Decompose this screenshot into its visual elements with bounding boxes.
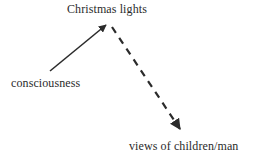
node-label-views-of-children-man: views of children/man (129, 139, 238, 153)
node-label-consciousness: consciousness (11, 76, 80, 90)
node-label-christmas-lights: Christmas lights (67, 2, 147, 16)
edge-consciousness-to-christmas-lights (50, 25, 106, 71)
edge-christmas-lights-to-views (112, 27, 180, 129)
diagram-canvas: Christmas lights consciousness views of … (0, 0, 255, 158)
